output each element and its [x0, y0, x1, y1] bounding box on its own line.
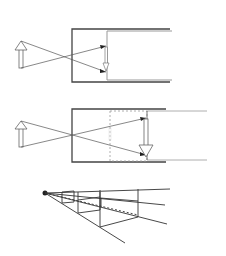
ghost-image-arrow-icon [109, 128, 111, 140]
object-arrow-up-icon [15, 41, 27, 68]
object-arrow-up-icon [15, 121, 27, 147]
ray-bottom [21, 46, 106, 68]
film-plane [107, 31, 172, 80]
ray-bottom [21, 118, 146, 147]
frustum-edge-lower-right [45, 193, 167, 224]
ray-arrowhead [100, 69, 106, 73]
camera-box-outline [72, 29, 170, 82]
image-arrow-down-icon [103, 47, 109, 71]
ray-top [21, 121, 146, 155]
frame-3 [100, 192, 138, 227]
panel-pinhole-camera-extended [15, 109, 207, 162]
frustum-edge-top [45, 189, 170, 193]
image-arrow-down-icon [139, 119, 153, 157]
frustum-edge-bottom [45, 193, 125, 243]
panel-pinhole-camera [15, 29, 172, 82]
panel-perspective-frustum [43, 189, 171, 243]
diagram-canvas [0, 0, 226, 256]
camera-box-outline [72, 109, 166, 162]
ray-top [21, 41, 106, 72]
